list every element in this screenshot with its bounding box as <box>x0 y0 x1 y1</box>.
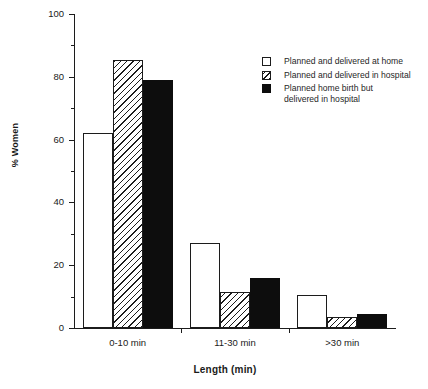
bar <box>327 317 357 328</box>
y-tick-label: 100 <box>24 9 64 19</box>
y-tick-minor <box>71 45 74 46</box>
bar <box>250 278 280 328</box>
y-tick-label: 40 <box>24 197 64 207</box>
x-tick-label: 11-30 min <box>190 337 280 348</box>
y-tick-minor <box>71 297 74 298</box>
y-axis-line <box>74 14 75 329</box>
x-tick-label: 0-10 min <box>83 337 173 348</box>
x-tick <box>181 329 182 333</box>
legend-label: Planned and delivered in hospital <box>284 70 411 81</box>
bar-chart-figure: % Women 020406080100 0-10 min11-30 min>3… <box>0 0 428 389</box>
y-tick-label: 20 <box>24 260 64 270</box>
y-tick-label: 80 <box>24 72 64 82</box>
y-tick-major <box>69 14 74 15</box>
legend-label: Planned and delivered at home <box>284 56 403 67</box>
legend-item: Planned and delivered at home <box>262 56 411 67</box>
bar <box>220 292 250 328</box>
bar <box>297 295 327 328</box>
y-tick-major <box>69 140 74 141</box>
x-tick-label: >30 min <box>297 337 387 348</box>
x-tick <box>289 329 290 333</box>
bar <box>113 60 143 328</box>
y-tick-label: 0 <box>24 323 64 333</box>
bar <box>143 80 173 328</box>
x-axis-title: Length (min) <box>60 364 390 375</box>
legend-label: Planned home birth but delivered in hosp… <box>284 83 373 104</box>
legend-swatch-open-icon <box>262 57 271 66</box>
legend-swatch-solid-icon <box>262 84 271 93</box>
x-axis-line <box>74 328 396 329</box>
y-tick-major <box>69 77 74 78</box>
y-tick-minor <box>71 234 74 235</box>
y-tick-label: 60 <box>24 135 64 145</box>
y-axis-title: % Women <box>10 100 20 190</box>
chart-legend: Planned and delivered at homePlanned and… <box>262 56 411 107</box>
y-tick-major <box>69 328 74 329</box>
bar <box>190 243 220 328</box>
legend-item: Planned home birth but delivered in hosp… <box>262 83 411 104</box>
bar <box>357 314 387 328</box>
legend-swatch-hatch-icon <box>262 71 271 80</box>
y-tick-minor <box>71 108 74 109</box>
y-tick-major <box>69 202 74 203</box>
y-tick-minor <box>71 171 74 172</box>
y-tick-major <box>69 265 74 266</box>
bar <box>83 133 113 328</box>
legend-item: Planned and delivered in hospital <box>262 70 411 81</box>
